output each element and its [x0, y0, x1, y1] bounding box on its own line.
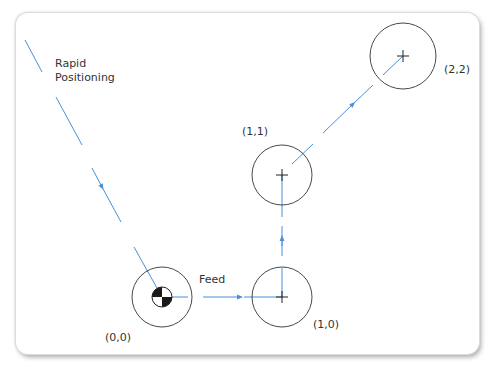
feed-label: Feed: [199, 273, 225, 287]
point-label-1-1: (1,1): [242, 125, 268, 139]
point-label-1-0: (1,0): [313, 318, 339, 332]
rapid-positioning-label: Rapid Positioning: [55, 57, 115, 85]
point-label-2-2: (2,2): [444, 63, 470, 77]
origin-marker-icon: [152, 287, 172, 307]
crosshair-icon: [276, 169, 288, 181]
rapid-label-line2: Positioning: [55, 71, 115, 85]
crosshair-icon: [276, 291, 288, 303]
point-label-0-0: (0,0): [105, 331, 131, 345]
rapid-label-line1: Rapid: [55, 57, 115, 71]
toolpath-diagram: [0, 0, 497, 368]
